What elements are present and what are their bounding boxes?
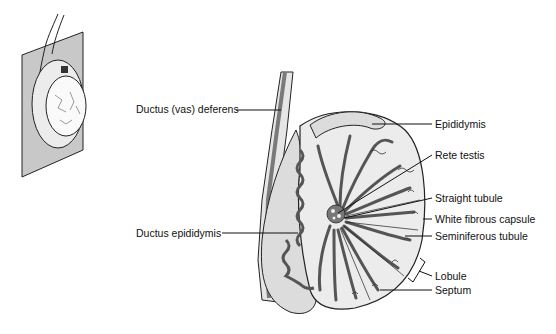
label-rete-testis: Rete testis	[435, 149, 485, 161]
leader-lobule	[419, 271, 432, 276]
label-lobule: Lobule	[435, 270, 467, 282]
inset-testis	[46, 76, 86, 136]
label-straight-tubule: Straight tubule	[435, 192, 503, 204]
label-epididymis: Epididymis	[435, 118, 486, 130]
rete-testis	[327, 205, 345, 223]
orientation-inset	[22, 14, 86, 177]
label-ductus-epididymis: Ductus epididymis	[136, 227, 221, 239]
inset-epididymis-head	[61, 66, 68, 73]
label-white-fibrous-capsule: White fibrous capsule	[435, 213, 535, 225]
label-septum: Septum	[435, 284, 471, 296]
label-seminiferous-tubule: Seminiferous tubule	[435, 230, 528, 242]
label-ductus-deferens: Ductus (vas) deferens	[136, 103, 239, 115]
testis-section	[258, 72, 425, 313]
